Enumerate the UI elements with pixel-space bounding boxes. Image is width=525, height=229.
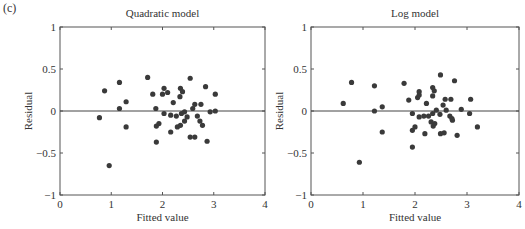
data-point (168, 129, 173, 134)
data-point (203, 84, 208, 89)
data-point (188, 76, 193, 81)
y-axis-label: Residual (22, 92, 34, 131)
data-point (107, 163, 112, 168)
data-point (349, 80, 354, 85)
chart-title: Log model (391, 7, 439, 19)
y-axis-label: Residual (273, 92, 285, 131)
y-tick-label: 0 (302, 105, 308, 117)
data-point (177, 94, 182, 99)
data-point (150, 92, 155, 97)
x-tick-label: 1 (360, 198, 366, 210)
data-point (154, 139, 159, 144)
data-point (165, 90, 170, 95)
data-point (430, 93, 435, 98)
data-point (200, 123, 205, 128)
data-point (440, 103, 445, 108)
data-point (102, 88, 107, 93)
x-tick-label: 1 (109, 198, 115, 210)
residual-plots: Quadratic model01234−1−0.500.51Fitted va… (0, 0, 525, 229)
x-tick-label: 2 (160, 198, 166, 210)
data-point (161, 86, 166, 91)
data-point (341, 101, 346, 106)
x-tick-label: 4 (262, 198, 268, 210)
data-point (437, 112, 442, 117)
x-tick-label: 3 (211, 198, 217, 210)
x-tick-label: 2 (412, 198, 418, 210)
data-point (450, 118, 455, 123)
data-point (145, 75, 150, 80)
y-tick-label: −1 (44, 189, 56, 201)
y-tick-label: −0.5 (36, 147, 56, 159)
x-tick-label: 4 (516, 198, 522, 210)
data-point (192, 102, 197, 107)
data-point (185, 114, 190, 119)
data-point (380, 129, 385, 134)
data-point (198, 102, 203, 107)
y-tick-label: 1 (51, 21, 57, 33)
data-point (468, 97, 473, 102)
data-point (168, 113, 173, 118)
x-tick-label: 3 (464, 198, 470, 210)
chart-title: Quadratic model (126, 7, 200, 19)
data-point (410, 111, 415, 116)
x-tick-label: 0 (308, 198, 314, 210)
data-point (188, 134, 193, 139)
data-point (161, 111, 166, 116)
data-point (422, 131, 427, 136)
data-point (421, 113, 426, 118)
log-model-panel: Log model01234−1−0.500.51Fitted valueRes… (273, 7, 522, 223)
data-point (97, 115, 102, 120)
x-axis-label: Fitted value (136, 211, 188, 223)
data-point (208, 109, 213, 114)
data-point (417, 92, 422, 97)
data-point (401, 81, 406, 86)
data-point (443, 97, 448, 102)
y-tick-label: 0.5 (42, 63, 56, 75)
y-tick-label: −1 (295, 189, 307, 201)
data-point (178, 123, 183, 128)
data-point (174, 113, 179, 118)
data-point (459, 107, 464, 112)
data-point (180, 89, 185, 94)
data-point (171, 100, 176, 105)
data-point (182, 109, 187, 114)
quadratic-model-panel: Quadratic model01234−1−0.500.51Fitted va… (22, 7, 268, 223)
data-point (156, 121, 161, 126)
x-axis-label: Fitted value (389, 211, 441, 223)
data-point (372, 108, 377, 113)
data-point (467, 111, 472, 116)
data-point (204, 139, 209, 144)
data-point (417, 114, 422, 119)
data-point (213, 92, 218, 97)
data-point (410, 145, 415, 150)
data-point (117, 106, 122, 111)
data-point (160, 92, 165, 97)
data-point (195, 113, 200, 118)
data-point (372, 83, 377, 88)
data-point (475, 124, 480, 129)
data-point (213, 108, 218, 113)
data-point (434, 108, 439, 113)
figure: (c) Quadratic model01234−1−0.500.51Fitte… (0, 0, 525, 229)
data-point (424, 101, 429, 106)
data-point (432, 121, 437, 126)
data-point (432, 88, 437, 93)
y-tick-label: 1 (302, 21, 308, 33)
data-point (406, 97, 411, 102)
x-tick-label: 0 (57, 198, 63, 210)
data-point (412, 124, 417, 129)
y-tick-label: −0.5 (287, 147, 307, 159)
data-point (452, 78, 457, 83)
data-point (117, 80, 122, 85)
data-point (455, 133, 460, 138)
data-point (448, 97, 453, 102)
data-point (357, 160, 362, 165)
data-point (438, 72, 443, 77)
data-point (124, 124, 129, 129)
data-point (380, 104, 385, 109)
data-point (153, 106, 158, 111)
y-tick-label: 0.5 (293, 63, 307, 75)
data-point (442, 130, 447, 135)
panel-label: (c) (3, 1, 16, 16)
data-point (444, 108, 449, 113)
